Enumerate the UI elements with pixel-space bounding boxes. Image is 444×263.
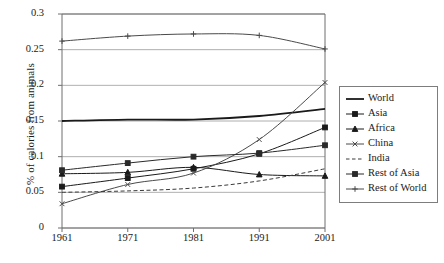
chart-legend: WorldAsiaAfricaChinaIndiaRest of AsiaRes…	[339, 86, 438, 203]
legend-key-icon	[345, 108, 365, 120]
series-world	[62, 109, 325, 121]
legend-key-icon	[345, 138, 365, 150]
data-point-marker	[125, 33, 131, 39]
legend-label: China	[368, 138, 393, 149]
series-line	[62, 82, 325, 203]
data-point-marker	[257, 151, 262, 156]
legend-label: Rest of World	[368, 183, 426, 194]
line-chart: % of calories from animals 0.30.250.20.1…	[0, 0, 444, 263]
data-point-marker	[191, 154, 196, 159]
legend-key-icon	[345, 123, 365, 135]
series-line	[62, 109, 325, 121]
legend-item-rest-of-world[interactable]: Rest of World	[340, 181, 437, 196]
data-point-marker	[60, 184, 65, 189]
legend-item-asia[interactable]: Asia	[340, 106, 437, 121]
legend-label: India	[368, 153, 390, 164]
legend-key-icon	[345, 168, 365, 180]
data-point-marker	[323, 143, 328, 148]
data-point-marker	[125, 161, 130, 166]
legend-label: World	[368, 93, 394, 104]
chart-page: % of calories from animals 0.30.250.20.1…	[0, 0, 444, 263]
data-point-marker	[353, 171, 358, 176]
legend-label: Africa	[368, 123, 395, 134]
series-rest-of-world	[59, 31, 328, 52]
data-point-marker	[191, 164, 197, 169]
data-point-marker	[60, 168, 65, 173]
data-point-marker	[257, 137, 262, 142]
data-point-marker	[125, 169, 131, 174]
legend-key-icon	[345, 183, 365, 195]
data-point-marker	[352, 126, 358, 131]
data-point-marker	[59, 38, 65, 44]
legend-item-world[interactable]: World	[340, 91, 437, 106]
data-point-marker	[125, 176, 130, 181]
data-point-marker	[191, 31, 197, 37]
legend-key-icon	[345, 93, 365, 105]
data-point-marker	[322, 46, 328, 52]
legend-label: Asia	[368, 108, 387, 119]
data-point-marker	[322, 173, 328, 178]
legend-item-rest-of-asia[interactable]: Rest of Asia	[340, 166, 437, 181]
legend-item-africa[interactable]: Africa	[340, 121, 437, 136]
series-line	[62, 169, 325, 193]
data-point-marker	[256, 172, 262, 177]
legend-label: Rest of Asia	[368, 168, 419, 179]
legend-item-china[interactable]: China	[340, 136, 437, 151]
legend-key-icon	[345, 153, 365, 165]
data-point-marker	[323, 125, 328, 130]
data-point-marker	[353, 111, 358, 116]
data-point-marker	[352, 186, 358, 192]
data-point-marker	[256, 33, 262, 39]
legend-item-india[interactable]: India	[340, 151, 437, 166]
series-india	[62, 169, 325, 193]
